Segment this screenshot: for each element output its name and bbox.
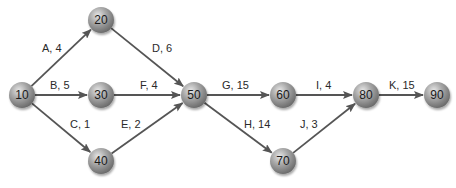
node-80: 80: [353, 82, 379, 108]
node-label: 90: [430, 88, 444, 102]
edge-label: G, 15: [222, 79, 249, 91]
node-40: 40: [88, 148, 114, 174]
edge-10-20: [31, 30, 90, 86]
node-label: 50: [187, 88, 201, 102]
node-label: 10: [15, 88, 29, 102]
node-label: 20: [94, 13, 108, 27]
node-label: 80: [359, 88, 373, 102]
edge-label: J, 3: [300, 118, 318, 130]
node-60: 60: [270, 82, 296, 108]
node-label: 40: [94, 154, 108, 168]
edge-label: I, 4: [316, 79, 331, 91]
node-10: 10: [9, 82, 35, 108]
node-label: 70: [276, 154, 290, 168]
node-50: 50: [181, 82, 207, 108]
node-20: 20: [88, 7, 114, 33]
edge-label: A, 4: [42, 42, 62, 54]
edge-label: D, 6: [152, 42, 172, 54]
edge-label: B, 5: [50, 79, 70, 91]
node-90: 90: [424, 82, 450, 108]
edge-label: C, 1: [70, 118, 90, 130]
edge-20-50: [111, 28, 183, 86]
network-diagram: A, 4B, 5C, 1D, 6F, 4E, 2G, 15H, 14I, 4J,…: [0, 0, 456, 188]
node-30: 30: [88, 82, 114, 108]
node-label: 60: [276, 88, 290, 102]
edge-label: F, 4: [140, 79, 158, 91]
node-70: 70: [270, 148, 296, 174]
edge-label: E, 2: [121, 118, 141, 130]
node-label: 30: [94, 88, 108, 102]
edge-label: K, 15: [389, 79, 415, 91]
edge-label: H, 14: [244, 118, 270, 130]
